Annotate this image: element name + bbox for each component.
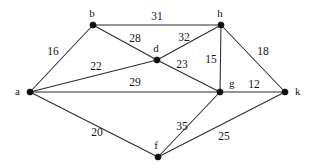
graph-node-b <box>90 22 96 28</box>
edge-weight-d-g: 23 <box>176 58 188 70</box>
graph-node-a <box>27 89 33 95</box>
edge-weight-b-d: 28 <box>129 32 141 44</box>
node-label-g: g <box>229 77 235 89</box>
graph-edge-a-b <box>30 25 93 92</box>
graph-node-k <box>282 89 288 95</box>
graph-node-g <box>217 89 223 95</box>
graph-edge-g-f <box>158 92 220 157</box>
graph-node-f <box>155 154 161 160</box>
graph-figure: abdfghk 16222920312832231518123525 <box>0 0 313 168</box>
node-label-h: h <box>217 7 223 19</box>
graph-node-h <box>218 22 224 28</box>
graph-edge-g-h <box>220 25 221 92</box>
node-label-k: k <box>295 85 301 97</box>
graph-edge-d-g <box>157 60 220 92</box>
node-label-f: f <box>154 139 158 151</box>
edge-weight-a-f: 20 <box>91 126 103 138</box>
edge-weight-a-b: 16 <box>47 45 59 57</box>
graph-node-d <box>154 57 160 63</box>
edge-weight-g-h: 15 <box>205 53 217 65</box>
edge-weight-h-k: 18 <box>257 45 269 57</box>
node-label-a: a <box>15 85 20 97</box>
graph-canvas: abdfghk 16222920312832231518123525 <box>0 0 313 168</box>
graph-edge-a-f <box>30 92 158 157</box>
node-label-b: b <box>89 7 95 19</box>
edge-weight-g-f: 35 <box>176 120 188 132</box>
edge-weight-f-k: 25 <box>218 130 230 142</box>
node-label-d: d <box>153 42 159 54</box>
graph-edge-b-d <box>93 25 157 60</box>
edge-weight-a-d: 22 <box>90 60 102 72</box>
edge-weight-a-g: 29 <box>129 76 141 88</box>
edge-weight-g-k: 12 <box>248 78 260 90</box>
edge-weight-d-h: 32 <box>178 31 190 43</box>
weight-labels-layer: 16222920312832231518123525 <box>47 10 269 142</box>
edge-weight-b-h: 31 <box>151 10 163 22</box>
